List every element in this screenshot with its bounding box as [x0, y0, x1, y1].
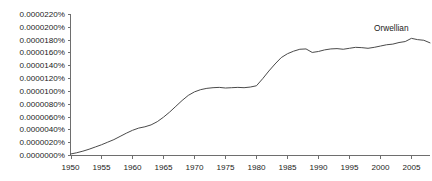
x-tick-label: 2005	[402, 163, 421, 172]
y-tick-label: 0.0000080%	[20, 100, 65, 109]
ngram-line-chart: 0.0000220%0.0000200%0.0000180%0.0000160%…	[0, 0, 432, 181]
x-tick-label: 2000	[371, 163, 390, 172]
x-tick-label: 1975	[216, 163, 235, 172]
y-tick-label: 0.0000040%	[20, 125, 65, 134]
x-tick-label: 1970	[185, 163, 204, 172]
x-tick-label: 1955	[92, 163, 111, 172]
y-tick-label: 0.0000160%	[20, 48, 65, 57]
x-axis-tick-labels: 1950195519601965197019751980198519901995…	[61, 163, 420, 172]
y-tick-label: 0.0000180%	[20, 36, 65, 45]
x-tick-label: 1950	[61, 163, 80, 172]
y-tick-label: 0.0000100%	[20, 87, 65, 96]
x-tick-label: 1990	[309, 163, 328, 172]
series-annotation-label: Orwellian	[374, 23, 409, 33]
y-tick-label: 0.0000200%	[20, 23, 65, 32]
y-tick-label: 0.0000140%	[20, 61, 65, 70]
y-tick-label: 0.0000060%	[20, 113, 65, 122]
x-tick-label: 1980	[247, 163, 266, 172]
x-tick-label: 1985	[278, 163, 297, 172]
y-tick-label: 0.0000120%	[20, 74, 65, 83]
y-axis-tick-labels: 0.0000220%0.0000200%0.0000180%0.0000160%…	[20, 10, 65, 160]
y-tick-label: 0.0000000%	[20, 151, 65, 160]
x-tick-label: 1960	[123, 163, 142, 172]
x-tick-label: 1995	[340, 163, 359, 172]
y-tick-label: 0.0000220%	[20, 10, 65, 19]
y-tick-label: 0.0000020%	[20, 138, 65, 147]
data-line-orwellian	[71, 38, 431, 154]
x-tick-label: 1965	[154, 163, 173, 172]
chart-canvas: 0.0000220%0.0000200%0.0000180%0.0000160%…	[0, 0, 432, 181]
